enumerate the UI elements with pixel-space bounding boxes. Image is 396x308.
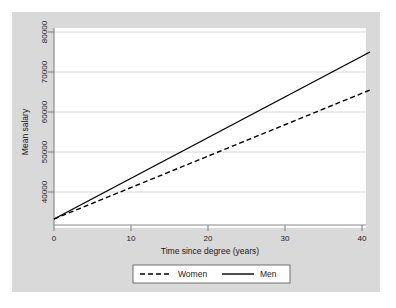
y-tick-label-60000: 60000 bbox=[40, 100, 49, 123]
chart-figure: 80000 70000 60000 50000 40000 Mean salar… bbox=[0, 0, 396, 308]
x-tick-label-10: 10 bbox=[127, 234, 136, 243]
legend-label-women: Women bbox=[178, 269, 207, 279]
x-tick-labels: 0 10 20 30 40 bbox=[52, 234, 367, 243]
y-tick-label-50000: 50000 bbox=[40, 140, 49, 163]
x-tick-label-0: 0 bbox=[52, 234, 57, 243]
y-tick-label-40000: 40000 bbox=[40, 180, 49, 203]
chart-canvas: 80000 70000 60000 50000 40000 Mean salar… bbox=[12, 12, 380, 292]
plot-panel-background bbox=[54, 28, 366, 228]
y-tick-label-80000: 80000 bbox=[40, 20, 49, 43]
y-axis-ticks bbox=[48, 32, 54, 192]
chart-plot-svg: 80000 70000 60000 50000 40000 Mean salar… bbox=[12, 12, 380, 292]
x-axis-title: Time since degree (years) bbox=[161, 246, 260, 256]
y-axis-title: Mean salary bbox=[20, 108, 30, 155]
chart-legend[interactable]: Women Men bbox=[133, 265, 290, 283]
x-tick-label-30: 30 bbox=[281, 234, 290, 243]
x-tick-label-40: 40 bbox=[358, 234, 367, 243]
x-tick-label-20: 20 bbox=[204, 234, 213, 243]
y-tick-labels: 80000 70000 60000 50000 40000 bbox=[40, 20, 49, 203]
y-tick-label-70000: 70000 bbox=[40, 60, 49, 83]
legend-label-men: Men bbox=[260, 269, 277, 279]
